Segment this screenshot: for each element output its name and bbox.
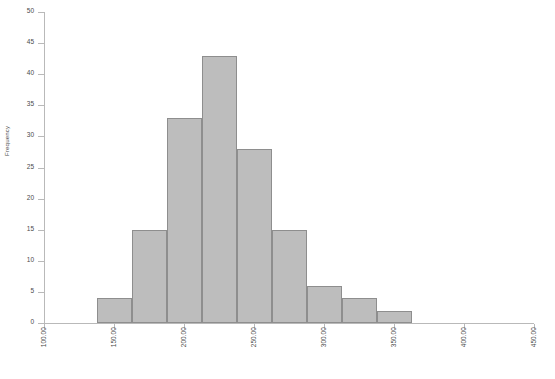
histogram-chart: Frequency 05101520253035404550 100.00150…: [0, 0, 555, 379]
histogram-bar: [307, 286, 342, 323]
histogram-bar: [202, 56, 237, 323]
histogram-bar: [272, 230, 307, 323]
histogram-bar: [132, 230, 167, 323]
plot-area: [0, 0, 555, 379]
histogram-bar: [167, 118, 202, 323]
histogram-bar: [377, 311, 412, 323]
histogram-bar: [342, 298, 377, 323]
histogram-bar: [97, 298, 132, 323]
histogram-bar: [237, 149, 272, 323]
